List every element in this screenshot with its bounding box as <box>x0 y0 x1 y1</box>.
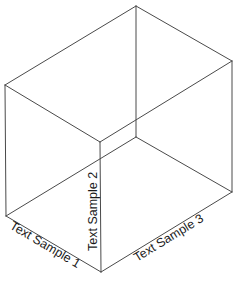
label-text-sample-3: Text Sample 3 <box>131 211 206 264</box>
edge-top-back-left <box>5 6 136 85</box>
edge-vertical-left <box>5 85 6 216</box>
edge-top-back-right <box>136 6 232 61</box>
label-text-sample-2: Text Sample 2 <box>86 172 100 251</box>
edge-vertical-front <box>100 142 101 272</box>
edge-top-front-right <box>100 61 232 142</box>
edge-bottom-back-right <box>136 137 232 192</box>
edge-bottom-back-left <box>6 137 136 216</box>
label-text-sample-1: Text Sample 1 <box>7 219 82 271</box>
box-diagram-svg: Text Sample 1 Text Sample 2 Text Sample … <box>0 0 234 283</box>
edge-top-front-left <box>5 85 100 142</box>
box-diagram: Text Sample 1 Text Sample 2 Text Sample … <box>0 0 234 283</box>
